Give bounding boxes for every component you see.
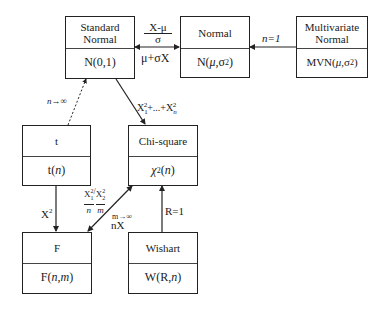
node-name-line1: Standard — [80, 21, 119, 33]
node-normal: Normal N(μ,σ2) — [180, 16, 250, 78]
edge-t-std-normal — [68, 79, 86, 125]
node-name: Normal — [181, 17, 249, 49]
edge-label-r1: R=1 — [165, 206, 184, 217]
node-name-line2: Normal — [315, 33, 349, 45]
edge-label-f-ratio: X12n/X22m — [84, 186, 105, 216]
node-name-line1: Multivariate — [305, 21, 359, 33]
node-notation: MVN(μ,σ2) — [297, 47, 367, 77]
node-name: t — [23, 126, 90, 157]
node-standard-normal: Standard Normal N(0,1) — [65, 16, 135, 79]
node-notation: χ2(n) — [129, 155, 197, 185]
node-name: F — [23, 233, 91, 264]
node-name-line2: Normal — [83, 33, 117, 45]
edge-label-sum-squares: X12+...+Xn2 — [137, 100, 176, 118]
node-notation: N(0,1) — [66, 47, 134, 78]
node-multivariate-normal: Multivariate Normal MVN(μ,σ2) — [296, 16, 368, 78]
node-notation: W(R, n ) — [129, 262, 197, 293]
edge-label-x-squared: X2 — [41, 206, 52, 220]
node-wishart: Wishart W(R, n ) — [128, 232, 198, 294]
node-notation: N(μ,σ2) — [181, 47, 249, 77]
node-notation: t(n) — [23, 155, 90, 185]
fraction-denominator: σ — [144, 34, 172, 45]
edge-label-nx: nX — [111, 220, 124, 231]
node-name: Standard Normal — [66, 17, 134, 49]
node-t: t t(n) — [22, 125, 91, 186]
node-name: Chi-square — [129, 126, 197, 157]
node-f: F F(n,m) — [22, 232, 92, 294]
node-notation: F(n,m) — [23, 262, 91, 293]
edge-label-n1: n=1 — [262, 33, 280, 44]
node-chi-square: Chi-square χ2(n) — [128, 125, 198, 186]
node-name: Wishart — [129, 233, 197, 264]
edge-label-destandardize: μ+σX — [141, 53, 169, 64]
edge-label-t-limit: n→∞ — [47, 96, 67, 107]
node-name: Multivariate Normal — [297, 17, 367, 49]
edge-label-standardize: X-μ σ — [144, 22, 172, 45]
